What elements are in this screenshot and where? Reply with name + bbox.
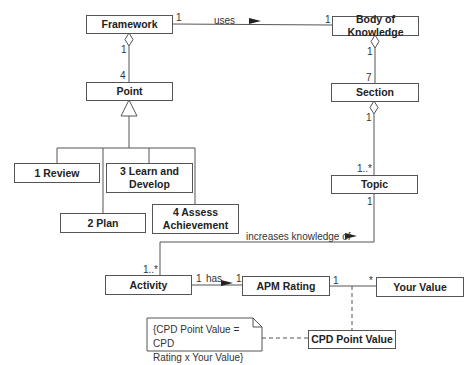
bok-section-mult-target: 7 (366, 72, 372, 83)
class-section-label: Section (356, 86, 394, 99)
class-topic: Topic (331, 175, 418, 194)
class-cpd-point-value: CPD Point Value (308, 330, 396, 349)
class-review-label: 1 Review (35, 167, 80, 180)
class-assess-achievement-label: 4 Assess Achievement (163, 206, 228, 232)
class-body-of-knowledge-label: Body of Knowledge (333, 13, 418, 39)
has-label: has (206, 273, 222, 284)
increases-mult-topic: 1 (367, 196, 373, 207)
section-topic-mult-target: 1..* (357, 163, 372, 174)
rating-value-mult-source: 1 (333, 275, 339, 286)
class-review: 1 Review (14, 163, 100, 183)
class-point: Point (86, 82, 173, 101)
uses-direction-arrow-icon (249, 18, 261, 24)
constraint-note: {CPD Point Value = CPD Rating x Your Val… (147, 320, 259, 350)
class-activity-label: Activity (130, 279, 168, 292)
increases-knowledge-label: increases knowledge of (246, 231, 351, 242)
class-framework: Framework (86, 15, 173, 34)
class-plan: 2 Plan (60, 213, 146, 233)
class-learn-develop: 3 Learn and Develop (106, 163, 193, 193)
class-apm-rating-label: APM Rating (257, 280, 316, 293)
note-line-1: {CPD Point Value = CPD (153, 323, 253, 351)
class-section: Section (331, 83, 419, 102)
framework-point-mult-target: 4 (120, 70, 126, 81)
framework-point-mult-source: 1 (121, 44, 127, 55)
class-cpd-point-value-label: CPD Point Value (311, 333, 393, 346)
class-your-value-label: Your Value (393, 281, 447, 294)
class-plan-label: 2 Plan (88, 217, 119, 230)
class-body-of-knowledge: Body of Knowledge (332, 16, 419, 36)
uses-association-line (172, 24, 332, 25)
rating-value-mult-target: * (369, 275, 373, 286)
uses-mult-target: 1 (325, 14, 331, 25)
class-assess-achievement: 4 Assess Achievement (152, 204, 239, 234)
bok-section-mult-source: 1 (367, 46, 373, 57)
uses-label: uses (214, 15, 235, 26)
class-topic-label: Topic (361, 178, 388, 191)
note-line-2: Rating x Your Value} (153, 351, 253, 365)
class-framework-label: Framework (101, 18, 157, 31)
class-learn-develop-label: 3 Learn and Develop (115, 165, 184, 191)
class-your-value: Your Value (376, 277, 464, 297)
class-activity: Activity (105, 275, 192, 295)
generalization-triangle-icon (121, 100, 137, 116)
uses-mult-source: 1 (176, 12, 182, 23)
has-mult-target: 1 (236, 273, 242, 284)
class-point-label: Point (116, 85, 142, 98)
increases-mult-activity: 1..* (143, 264, 158, 275)
class-apm-rating: APM Rating (242, 276, 330, 296)
has-mult-source: 1 (196, 273, 202, 284)
section-topic-mult-source: 1 (366, 112, 372, 123)
